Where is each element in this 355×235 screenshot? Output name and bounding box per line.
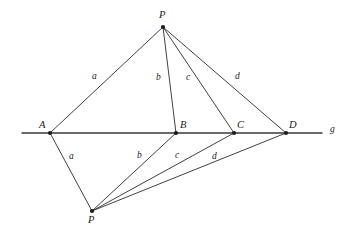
- label-segment-bottom-d: d: [212, 152, 217, 162]
- label-point-p-bottom: P: [88, 215, 94, 226]
- vertex-dot-d: [284, 131, 288, 135]
- segment-seg-top-a: [50, 27, 163, 133]
- vertex-dot-a: [48, 131, 52, 135]
- label-segment-bottom-a: a: [69, 152, 74, 162]
- vertex-dot-p-bottom: [90, 209, 94, 213]
- label-segment-top-b: b: [156, 73, 161, 83]
- label-point-c: C: [237, 120, 244, 131]
- vertex-dot-b: [174, 131, 178, 135]
- label-segment-top-a: a: [92, 72, 97, 82]
- label-segment-bottom-c: c: [175, 151, 179, 161]
- label-point-a: A: [39, 120, 45, 131]
- label-segment-top-c: c: [186, 73, 190, 83]
- geometry-diagram: P A B C D P g a b c d a b c d: [0, 0, 355, 235]
- vertices-group: [48, 25, 288, 213]
- label-point-d: D: [289, 120, 297, 131]
- label-line-g: g: [330, 125, 335, 135]
- diagram-canvas: [0, 0, 355, 235]
- segment-seg-bot-d: [92, 133, 286, 211]
- vertex-dot-p-top: [161, 25, 165, 29]
- segment-seg-top-d: [163, 27, 286, 133]
- segments-group: [50, 27, 286, 211]
- label-segment-top-d: d: [235, 72, 240, 82]
- segment-seg-bot-a: [50, 133, 92, 211]
- label-point-p-top: P: [159, 10, 165, 21]
- label-point-b: B: [180, 120, 186, 131]
- label-segment-bottom-b: b: [137, 151, 142, 161]
- vertex-dot-c: [232, 131, 236, 135]
